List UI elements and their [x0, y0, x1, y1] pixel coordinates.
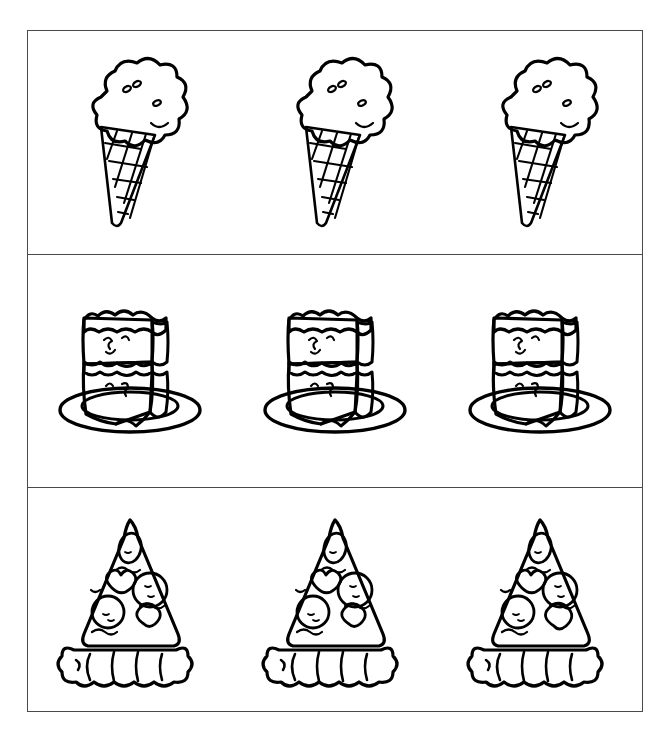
ice-cream-cone-cell-1[interactable]: [28, 31, 233, 254]
cake-slice-cell-3[interactable]: [437, 255, 642, 487]
pizza-slice-cell-1[interactable]: [28, 488, 233, 710]
pizza-slice-icon: [40, 504, 220, 694]
cake-slice-icon: [450, 286, 630, 456]
cake-slice-icon: [40, 286, 220, 456]
ice-cream-cone-icon: [55, 43, 205, 243]
ice-cream-cone-cell-2[interactable]: [233, 31, 438, 254]
worksheet-frame: [27, 30, 643, 712]
pizza-slice-cell-3[interactable]: [437, 488, 642, 710]
cake-slice-cell-1[interactable]: [28, 255, 233, 487]
pizza-slice-cell-2[interactable]: [233, 488, 438, 710]
cake-slice-cell-2[interactable]: [233, 255, 438, 487]
cake-slice-icon: [245, 286, 425, 456]
ice-cream-row: [28, 31, 642, 255]
pizza-slice-icon: [450, 504, 630, 694]
pizza-slice-row: [28, 488, 642, 710]
ice-cream-cone-cell-3[interactable]: [437, 31, 642, 254]
cake-slice-row: [28, 255, 642, 488]
ice-cream-cone-icon: [465, 43, 615, 243]
ice-cream-cone-icon: [260, 43, 410, 243]
pizza-slice-icon: [245, 504, 425, 694]
